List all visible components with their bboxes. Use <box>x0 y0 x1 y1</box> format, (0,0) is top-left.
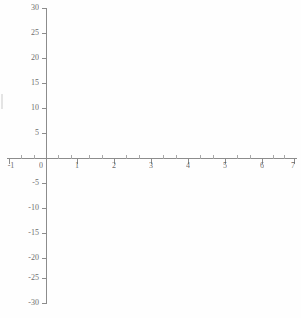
x-tick-label-5: 5 <box>223 162 227 170</box>
coordinate-plane <box>0 0 301 318</box>
y-tick-label-neg10: -10 <box>28 204 39 212</box>
x-tick-label-6: 6 <box>260 162 264 170</box>
y-tick-label-neg30: -30 <box>28 299 39 307</box>
y-tick-label-neg20: -20 <box>28 254 39 262</box>
y-tick-label-neg5: -5 <box>32 179 39 187</box>
x-axis-minor-ticks <box>22 155 285 159</box>
y-tick-label-10: 10 <box>31 104 39 112</box>
x-tick-label-4: 4 <box>186 162 190 170</box>
x-tick-label-2: 2 <box>112 162 116 170</box>
y-tick-label-25: 25 <box>31 29 39 37</box>
x-tick-label-neg1: -1 <box>8 162 15 170</box>
y-tick-label-30: 30 <box>31 4 39 12</box>
x-tick-label-7: 7 <box>291 162 295 170</box>
y-tick-label-neg25: -25 <box>28 274 39 282</box>
axes-group <box>7 9 297 304</box>
y-tick-label-20: 20 <box>31 54 39 62</box>
y-tick-label-15: 15 <box>31 79 39 87</box>
x-tick-label-1: 1 <box>75 162 79 170</box>
origin-label: 0 <box>39 162 43 170</box>
chart-screenshot: 30 25 20 15 10 5 -5 -10 -15 -20 -25 -30 … <box>0 0 301 318</box>
y-tick-label-5: 5 <box>35 129 39 137</box>
y-tick-label-neg15: -15 <box>28 229 39 237</box>
y-axis-major-ticks <box>42 9 47 304</box>
x-tick-label-3: 3 <box>149 162 153 170</box>
